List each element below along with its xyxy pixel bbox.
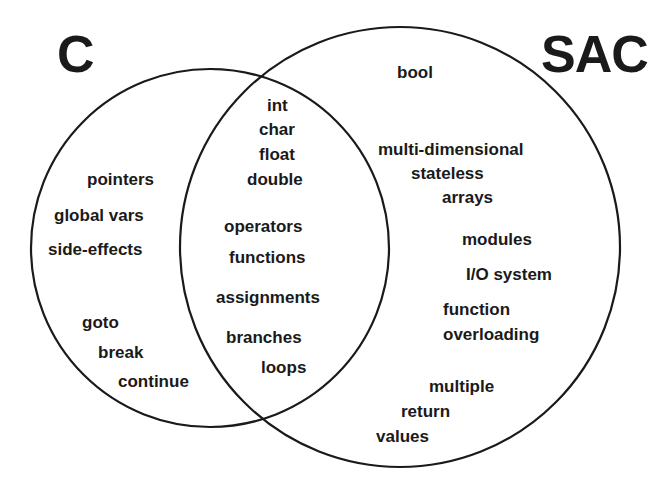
shared-item-operators: operators — [224, 218, 302, 235]
c-item-break: break — [98, 344, 143, 361]
c-item-continue: continue — [118, 373, 189, 390]
sac-item-stateless: stateless — [411, 165, 484, 182]
sac-item-function: function — [443, 301, 510, 318]
sac-item-bool: bool — [397, 64, 433, 81]
sac-item-multi-dimensional: multi-dimensional — [378, 141, 523, 158]
sac-item-overloading: overloading — [443, 326, 539, 343]
sac-item-values: values — [376, 428, 429, 445]
shared-item-assignments: assignments — [216, 289, 320, 306]
shared-item-char: char — [259, 121, 295, 138]
sac-set-label: SAC — [541, 28, 648, 80]
shared-item-branches: branches — [226, 329, 302, 346]
sac-item-arrays: arrays — [442, 189, 493, 206]
shared-item-int: int — [267, 97, 288, 114]
sac-set-circle — [180, 27, 620, 467]
c-item-side-effects: side-effects — [48, 241, 142, 258]
sac-item-return: return — [401, 403, 450, 420]
shared-item-float: float — [259, 146, 295, 163]
sac-item-modules: modules — [462, 231, 532, 248]
c-set-label: C — [57, 28, 94, 80]
c-item-goto: goto — [82, 314, 119, 331]
shared-item-double: double — [247, 171, 303, 188]
shared-item-functions: functions — [229, 249, 306, 266]
sac-item-multiple: multiple — [429, 378, 494, 395]
c-item-global-vars: global vars — [54, 207, 144, 224]
sac-item-io-system: I/O system — [466, 266, 552, 283]
c-item-pointers: pointers — [87, 171, 154, 188]
shared-item-loops: loops — [261, 359, 306, 376]
